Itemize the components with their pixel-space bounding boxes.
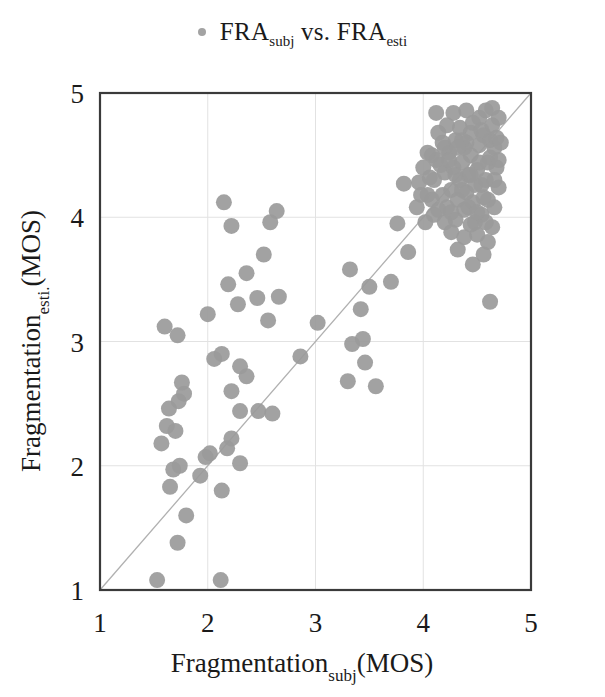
- data-point: [271, 289, 287, 305]
- data-point: [172, 458, 188, 474]
- data-point: [149, 572, 165, 588]
- data-point: [463, 167, 479, 183]
- data-point: [353, 301, 369, 317]
- data-point: [153, 435, 169, 451]
- y-axis-title: Fragmentationesti.(MOS): [16, 210, 53, 472]
- data-point: [484, 100, 500, 116]
- data-point: [400, 244, 416, 260]
- data-point: [443, 204, 459, 220]
- data-point: [413, 187, 429, 203]
- data-point: [383, 274, 399, 290]
- data-point: [223, 218, 239, 234]
- data-point: [198, 449, 214, 465]
- data-point: [361, 279, 377, 295]
- data-point: [342, 261, 358, 277]
- data-point: [480, 192, 496, 208]
- data-point: [232, 403, 248, 419]
- data-point: [264, 406, 280, 422]
- data-point: [415, 160, 431, 176]
- data-point: [214, 346, 230, 362]
- svg-text:Fragmentationesti.(MOS): Fragmentationesti.(MOS): [16, 210, 53, 472]
- data-point: [232, 358, 248, 374]
- data-point: [450, 140, 466, 156]
- data-point: [192, 468, 208, 484]
- data-point: [454, 182, 470, 198]
- data-point: [491, 152, 507, 168]
- x-axis-tick-labels: 12345: [93, 608, 538, 638]
- x-tick-label: 5: [524, 608, 538, 638]
- data-point: [200, 306, 216, 322]
- y-tick-label: 4: [71, 203, 85, 233]
- data-point: [473, 122, 489, 138]
- data-point: [178, 507, 194, 523]
- scatter-plot-figure: FRAsubj vs. FRAesti 12345 12345 Fragment…: [0, 0, 605, 697]
- data-point: [256, 247, 272, 263]
- y-axis-tick-labels: 12345: [71, 79, 85, 606]
- data-point: [368, 378, 384, 394]
- data-point: [458, 102, 474, 118]
- data-point: [214, 483, 230, 499]
- data-point: [162, 479, 178, 495]
- data-point: [239, 265, 255, 281]
- data-point: [170, 535, 186, 551]
- data-point: [450, 242, 466, 258]
- data-point: [292, 348, 308, 364]
- data-point: [448, 167, 464, 183]
- data-point: [167, 423, 183, 439]
- data-point: [357, 355, 373, 371]
- data-point: [213, 572, 229, 588]
- svg-text:Fragmentationsubj(MOS): Fragmentationsubj(MOS): [171, 648, 433, 685]
- y-tick-label: 1: [71, 576, 85, 606]
- data-point: [493, 135, 509, 151]
- data-point: [230, 296, 246, 312]
- data-point: [250, 403, 266, 419]
- data-point: [232, 455, 248, 471]
- data-point: [435, 135, 451, 151]
- data-point: [174, 375, 190, 391]
- data-point: [465, 256, 481, 272]
- data-points: [149, 100, 509, 588]
- data-point: [170, 327, 186, 343]
- data-point: [482, 294, 498, 310]
- data-point: [249, 290, 265, 306]
- x-tick-label: 2: [201, 608, 215, 638]
- data-point: [269, 203, 285, 219]
- data-point: [220, 276, 236, 292]
- x-tick-label: 1: [93, 608, 107, 638]
- y-tick-label: 3: [71, 328, 85, 358]
- data-point: [389, 215, 405, 231]
- y-tick-label: 2: [71, 452, 85, 482]
- data-point: [486, 172, 502, 188]
- plot-canvas: 12345 12345 Fragmentationsubj(MOS) Fragm…: [0, 0, 605, 697]
- data-point: [310, 315, 326, 331]
- data-point: [223, 430, 239, 446]
- x-tick-label: 3: [309, 608, 323, 638]
- x-tick-label: 4: [417, 608, 431, 638]
- data-point: [260, 312, 276, 328]
- data-point: [340, 373, 356, 389]
- data-point: [426, 172, 442, 188]
- x-axis-title: Fragmentationsubj(MOS): [171, 648, 433, 685]
- data-point: [469, 204, 485, 220]
- y-tick-label: 5: [71, 79, 85, 109]
- data-point: [355, 331, 371, 347]
- data-point: [420, 145, 436, 161]
- data-point: [439, 117, 455, 133]
- data-point: [396, 176, 412, 192]
- data-point: [216, 194, 232, 210]
- data-point: [428, 105, 444, 121]
- data-point: [223, 383, 239, 399]
